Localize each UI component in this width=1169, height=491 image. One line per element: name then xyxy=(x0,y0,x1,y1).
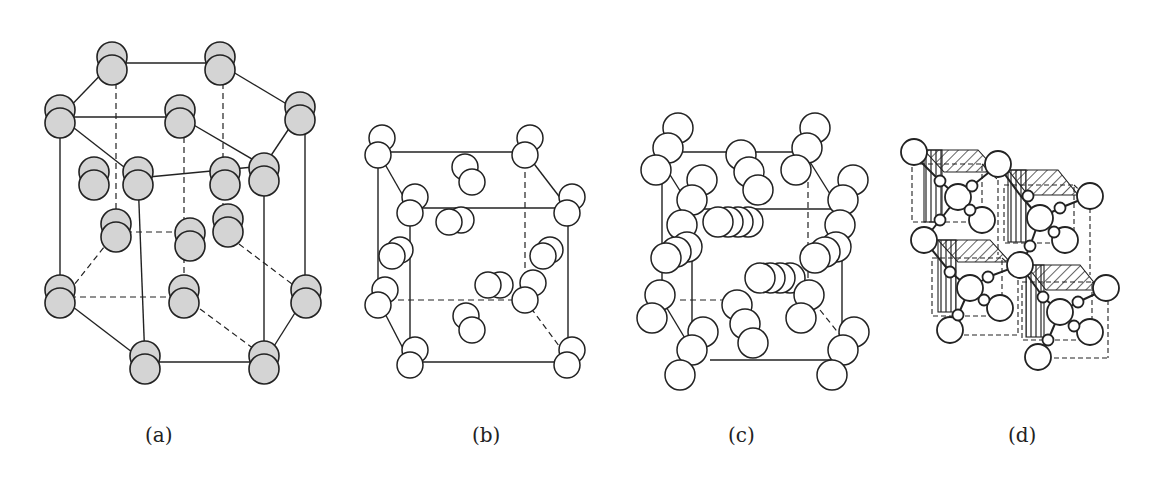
molecule xyxy=(123,157,153,200)
molecule xyxy=(175,218,205,261)
panel-d: (d) xyxy=(890,0,1169,491)
molecule xyxy=(285,92,315,135)
panel-label-a: (a) xyxy=(145,423,173,447)
molecule xyxy=(97,42,127,85)
molecule xyxy=(45,95,75,138)
molecule xyxy=(249,341,279,384)
panel-label-d: (d) xyxy=(1008,423,1036,447)
panel-label-b: (b) xyxy=(472,423,500,447)
molecule xyxy=(101,209,131,252)
molecule xyxy=(130,341,160,384)
panel-c: (c) xyxy=(610,0,900,491)
molecule xyxy=(165,95,195,138)
hexagonal-lattice-diagram xyxy=(0,0,340,491)
panel-label-c: (c) xyxy=(728,423,755,447)
molecule xyxy=(249,153,279,196)
molecule xyxy=(45,275,75,318)
molecule xyxy=(205,42,235,85)
diamond-lattice-diagram xyxy=(890,0,1169,491)
cubic-chain-diagram xyxy=(610,0,900,491)
molecule xyxy=(291,275,321,318)
molecule xyxy=(79,157,109,200)
panel-a: (a) xyxy=(0,0,340,491)
molecule xyxy=(213,204,243,247)
panel-b: (b) xyxy=(340,0,610,491)
cubic-diatomic-diagram xyxy=(340,0,610,491)
molecule xyxy=(210,157,240,200)
molecule xyxy=(169,275,199,318)
